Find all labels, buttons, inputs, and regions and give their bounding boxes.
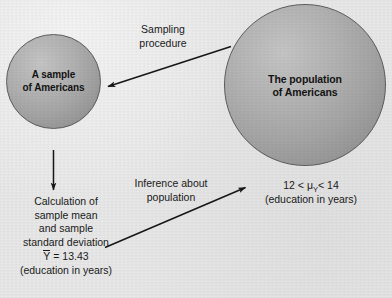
y-bar-symbol: Y — [43, 249, 50, 264]
inference-about-population-label: Inference about population — [110, 177, 232, 204]
sampling-procedure-arrow — [108, 47, 231, 87]
interval-operator-right: < — [318, 179, 324, 191]
interval-lower-bound: 12 — [283, 179, 295, 191]
interval-operator-left: < — [298, 179, 304, 191]
population-circle-label: The population of Americans — [268, 73, 342, 99]
sample-mean-statistic: Y = 13.43 — [4, 249, 128, 264]
calculation-line-2: sample mean — [4, 209, 128, 223]
sampling-procedure-label-line1: Sampling — [141, 23, 185, 35]
calculation-line-1: Calculation of — [4, 195, 128, 209]
sample-circle: A sample of Americans — [6, 34, 101, 129]
sample-circle-label-line1: A sample — [32, 69, 75, 80]
population-circle-label-line2: of Americans — [273, 86, 338, 98]
inference-label-line2: population — [147, 191, 195, 203]
calculation-units-note: (education in years) — [4, 264, 128, 278]
sample-circle-label-line2: of Americans — [23, 82, 85, 93]
statistics-sampling-diagram: A sample of Americans The population of … — [0, 0, 392, 298]
sample-mean-value: = 13.43 — [53, 250, 88, 262]
population-circle-label-line1: The population — [268, 73, 342, 85]
confidence-interval-expression: 12 < μY< 14 — [249, 178, 373, 192]
sampling-procedure-label: Sampling procedure — [111, 23, 215, 50]
sample-circle-label: A sample of Americans — [23, 69, 85, 94]
interval-upper-bound: 14 — [327, 179, 339, 191]
calculation-block: Calculation of sample mean and sample st… — [4, 195, 128, 278]
interval-units-note: (education in years) — [249, 192, 373, 206]
sampling-procedure-label-line2: procedure — [139, 37, 186, 49]
calculation-line-4: standard deviation — [4, 236, 128, 250]
calculation-line-3: and sample — [4, 222, 128, 236]
inference-label-line1: Inference about — [135, 177, 208, 189]
confidence-interval-block: 12 < μY< 14 (education in years) — [249, 178, 373, 206]
population-circle: The population of Americans — [224, 4, 386, 166]
